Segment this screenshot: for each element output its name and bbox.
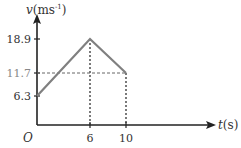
xtick-label-6: 6 [87, 132, 94, 145]
velocity-line [37, 39, 126, 96]
xlabel: t(s) [218, 118, 238, 132]
origin-label: O [23, 131, 33, 145]
ytick-label-11.7: 11.7 [7, 67, 32, 80]
velocity-time-graph: v(ms-1) 18.9 11.7 6.3 O 6 10 t(s) [0, 0, 241, 148]
ytick-label-6.3: 6.3 [14, 90, 32, 103]
ylabel: v(ms-1) [26, 3, 67, 17]
ytick-label-18.9: 18.9 [7, 33, 32, 46]
xtick-label-10: 10 [119, 132, 133, 145]
